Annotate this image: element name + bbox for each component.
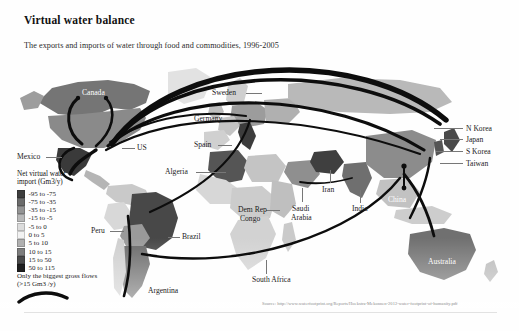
country-iran — [310, 150, 344, 174]
legend-row: -15 to -5 — [17, 214, 113, 222]
footer-divider — [24, 312, 497, 313]
country-japan — [444, 128, 460, 152]
map-label-south-africa: South Africa — [252, 276, 291, 285]
map-label-iran: Iran — [322, 186, 334, 195]
map-label-india: India — [352, 205, 368, 214]
leader-skorea — [436, 151, 463, 152]
map-label-brazil: Brazil — [182, 233, 201, 242]
legend-label: -35 to -15 — [29, 206, 57, 214]
flows-note: Only the biggest gross flows (>15 Gm3 /y… — [17, 272, 127, 308]
legend-label: -5 to 0 — [29, 223, 47, 231]
map-label-australia: Australia — [428, 258, 456, 267]
legend-label: -15 to -5 — [29, 214, 53, 222]
legend-swatch — [17, 190, 25, 198]
map-label-taiwan: Taiwan — [466, 160, 488, 169]
map-label-saudi-arabia-2: Arabia — [291, 214, 312, 223]
map-label-canada: Canada — [82, 89, 105, 98]
source-note: Source: http://www.waterfootprint.org/Re… — [262, 301, 458, 306]
map-label-mexico: Mexico — [17, 153, 40, 162]
legend-swatch — [17, 214, 25, 222]
leader-taiwan — [440, 163, 463, 164]
map-label-algeria: Algeria — [165, 168, 188, 177]
infographic-page: Virtual water balance The exports and im… — [0, 0, 519, 331]
endpoint-sea — [402, 186, 407, 191]
leader-nkorea — [434, 128, 463, 129]
map-label-china: China — [388, 196, 406, 205]
legend-row: 10 to 15 — [17, 247, 113, 255]
legend-title: Net virtual water import (Gm3/y) — [17, 170, 113, 186]
legend-label: 0 to 5 — [29, 231, 45, 239]
legend-swatch — [17, 223, 25, 231]
leader-dem-rep-congo — [266, 210, 280, 211]
legend-label: 5 to 10 — [29, 239, 48, 247]
legend-swatch — [17, 206, 25, 214]
legend-swatch — [17, 239, 25, 247]
leader-brazil — [168, 237, 180, 238]
leader-us — [122, 148, 135, 149]
legend-label: -75 to -35 — [29, 198, 57, 206]
leader-mexico — [46, 157, 62, 158]
map-label-germany: Germany — [194, 115, 222, 124]
leader-japan — [440, 139, 463, 140]
leader-iran — [330, 170, 331, 183]
map-label-japan: Japan — [466, 136, 483, 145]
country-alaska — [20, 91, 44, 110]
legend-swatch — [17, 198, 25, 206]
endpoint-canada-a — [76, 96, 80, 100]
legend-swatch — [17, 248, 25, 256]
leader-south-africa — [266, 260, 267, 274]
leader-saudi — [302, 188, 303, 202]
leader-india — [360, 190, 361, 203]
legend-row: 15 to 50 — [17, 256, 113, 264]
map-label-spain: Spain — [194, 141, 211, 150]
map-label-s-korea: S Korea — [466, 148, 491, 157]
map-label-argentina: Argentina — [148, 287, 178, 296]
leader-sweden — [246, 93, 262, 94]
legend-row: -5 to 0 — [17, 223, 113, 231]
legend-row: -35 to -15 — [17, 206, 113, 214]
legend-row: -75 to -35 — [17, 198, 113, 206]
legend-rows: -95 to -75-75 to -35-35 to -15-15 to -5-… — [17, 189, 113, 272]
map-label-sweden: Sweden — [212, 89, 236, 98]
flow-symbol-icon — [17, 290, 73, 304]
endpoint-china — [401, 163, 406, 168]
legend-label: -95 to -75 — [29, 190, 57, 198]
page-title: Virtual water balance — [24, 14, 135, 26]
legend-label: 10 to 15 — [29, 248, 52, 256]
map-label-us: US — [137, 144, 147, 153]
map-label-n-korea: N Korea — [466, 125, 492, 134]
legend-title-line2: import (Gm3/y) — [17, 178, 63, 186]
leader-algeria — [196, 172, 226, 173]
legend-label: 15 to 50 — [29, 256, 52, 264]
page-subtitle: The exports and imports of water through… — [24, 41, 279, 50]
legend-row: 0 to 5 — [17, 231, 113, 239]
legend-title-line1: Net virtual water — [17, 170, 66, 178]
flows-note-line2: (>15 Gm3 /y) — [17, 280, 127, 288]
country-korea — [434, 140, 444, 156]
legend-row: -95 to -75 — [17, 189, 113, 197]
country-north-africa-east — [244, 154, 286, 182]
leader-spain — [218, 145, 232, 146]
legend-swatch — [17, 256, 25, 264]
map-label-dem-rep-congo-2: Congo — [240, 215, 260, 224]
legend: Net virtual water import (Gm3/y) -95 to … — [17, 170, 113, 272]
legend-swatch — [17, 231, 25, 239]
legend-row: 5 to 10 — [17, 239, 113, 247]
country-indonesia — [394, 206, 452, 224]
flows-note-line1: Only the biggest gross flows — [17, 272, 127, 280]
